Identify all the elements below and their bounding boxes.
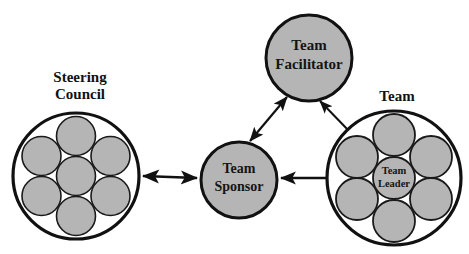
arrow-council-sponsor-line [143,176,197,178]
steering-council-member [91,177,130,216]
connector-sponsor-facilitator [250,97,287,141]
team-member [336,178,378,220]
team-leader-label-line2: Leader [378,178,410,189]
steering-council-member [22,137,61,176]
group-steering-council[interactable]: Steering Council [13,69,139,239]
team-structure-diagram: Steering Council Team Leader Team Team F… [0,0,469,254]
team-member [373,200,415,242]
team-member [336,136,378,178]
team-facilitator-label-line1: Team [291,37,327,53]
team-member [373,114,415,156]
team-sponsor-label-line2: Sponsor [214,179,263,194]
steering-council-member [91,137,130,176]
team-facilitator-label-line2: Facilitator [275,56,343,72]
team-sponsor-label-line1: Team [223,161,256,176]
arrow-sponsor-facilitator-line [250,97,287,141]
steering-council-member [22,177,61,216]
steering-council-label-line1: Steering [53,69,107,85]
team-leader-label-line1: Team [382,165,407,176]
team-member [410,136,452,178]
node-team-sponsor[interactable]: Team Sponsor [201,142,277,218]
steering-council-member [57,197,96,236]
group-team[interactable]: Team Leader Team [327,88,461,245]
node-team-facilitator[interactable]: Team Facilitator [266,15,352,101]
steering-council-label-line2: Council [55,86,105,102]
steering-council-member [57,157,96,196]
diagram-canvas: Steering Council Team Leader Team Team F… [0,0,469,254]
connector-council-sponsor [143,176,197,178]
steering-council-member [57,117,96,156]
team-label: Team [379,88,415,104]
team-member [410,178,452,220]
